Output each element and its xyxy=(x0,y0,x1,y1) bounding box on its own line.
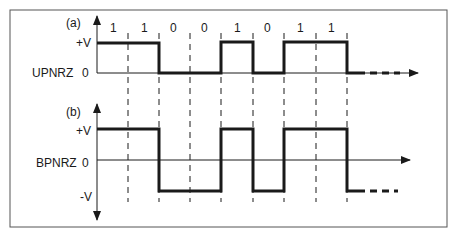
panel-a-bit-labels: 1 1 0 0 1 0 1 1 xyxy=(110,21,335,35)
bit-label: 1 xyxy=(234,21,241,35)
panel-b-low-level: -V xyxy=(80,190,92,204)
nrz-diagram: (a) +V 0 UPNRZ 1 1 0 0 1 0 1 1 (b) +V 0 … xyxy=(0,0,454,235)
panel-b: (b) +V 0 -V BPNRZ xyxy=(36,104,410,220)
panel-a-signal-name: UPNRZ xyxy=(32,66,73,80)
bit-label: 1 xyxy=(297,21,304,35)
bit-label: 1 xyxy=(141,21,148,35)
panel-a-zero-level: 0 xyxy=(82,66,89,80)
bit-label: 1 xyxy=(110,21,117,35)
panel-b-tag: (b) xyxy=(66,105,81,119)
panel-a-high-level: +V xyxy=(76,36,91,50)
panel-b-high-level: +V xyxy=(76,124,91,138)
bit-label: 0 xyxy=(170,21,177,35)
bit-boundary-lines xyxy=(128,33,347,202)
bit-label: 0 xyxy=(264,21,271,35)
panel-a-waveform xyxy=(97,42,358,73)
panel-b-zero-level: 0 xyxy=(82,156,89,170)
bit-label: 0 xyxy=(201,21,208,35)
panel-a: (a) +V 0 UPNRZ 1 1 0 0 1 0 1 1 xyxy=(32,16,418,80)
panel-a-tag: (a) xyxy=(66,16,81,30)
bit-label: 1 xyxy=(328,21,335,35)
panel-b-signal-name: BPNRZ xyxy=(36,156,77,170)
